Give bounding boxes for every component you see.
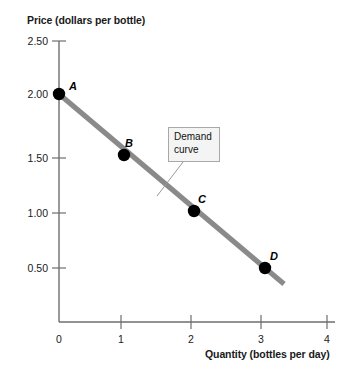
data-point-label-b: B	[125, 137, 133, 149]
data-point-d	[259, 262, 271, 274]
demand-curve-chart: Price (dollars per bottle) Quantity (bot…	[0, 0, 342, 388]
data-point-b	[118, 149, 130, 161]
data-point-label-c: C	[198, 193, 206, 205]
data-point-label-a: A	[69, 80, 77, 92]
annotation-text-line-2: curve	[174, 144, 214, 157]
annotation-text-line-1: Demand	[174, 131, 214, 144]
plot-area	[0, 0, 342, 388]
data-point-a	[53, 88, 65, 100]
data-point-c	[188, 205, 200, 217]
demand-curve-line	[59, 94, 284, 284]
data-point-label-d: D	[270, 250, 278, 262]
demand-curve-annotation: Demand curve	[168, 127, 220, 162]
